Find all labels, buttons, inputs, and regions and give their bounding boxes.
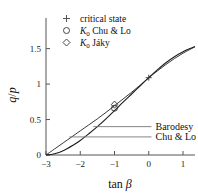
y-axis-title: q/p	[5, 87, 19, 102]
x-tick-label-2: −1	[110, 159, 120, 169]
circle-marker-icon	[64, 28, 70, 34]
x-tick-label-0: −3	[41, 159, 51, 169]
x-tick-label-1: −2	[75, 159, 85, 169]
y-axis-tick-labels: 00.511.5	[30, 44, 42, 160]
legend-item-critical-state[interactable]: critical state	[63, 14, 126, 24]
legend-k-rest-2: Jáky	[90, 38, 110, 48]
chart-plot-area: −3−2−101 00.511.5 Barodesy Chu & Lo	[0, 0, 198, 195]
annotation-label-chu-and-lo: Chu & Lo	[155, 131, 196, 142]
legend-item-k0-jaky[interactable]: K0 Jáky	[63, 38, 110, 50]
x-axis-ticks	[46, 151, 183, 155]
legend-label-k0-jaky: K0 Jáky	[79, 38, 110, 50]
y-tick-label-2: 1	[37, 79, 42, 89]
legend: critical state K0 Chu & Lo K0 Jáky	[63, 14, 131, 50]
y-tick-label-0: 0	[37, 150, 42, 160]
diamond-marker-icon	[63, 39, 70, 46]
y-tick-label-3: 1.5	[30, 44, 42, 54]
legend-k-rest: Chu & Lo	[90, 26, 131, 36]
plus-marker-icon	[63, 15, 70, 22]
x-axis-title-main: tan	[108, 177, 123, 191]
y-tick-label-1: 0.5	[30, 115, 42, 125]
y-axis-ticks	[46, 49, 50, 155]
legend-label-k0-chu-and-lo: K0 Chu & Lo	[79, 26, 131, 38]
x-axis-title-symbol: β	[125, 177, 132, 191]
x-axis-title: tanβ	[108, 177, 132, 191]
y-axis-title-den: p	[5, 87, 19, 94]
legend-item-k0-chu-and-lo[interactable]: K0 Chu & Lo	[64, 26, 131, 38]
annotation-leader-lines	[69, 127, 151, 137]
legend-label-critical-state: critical state	[80, 14, 126, 24]
x-axis-tick-labels: −3−2−101	[41, 159, 185, 169]
x-tick-label-4: 1	[181, 159, 186, 169]
axes-group: −3−2−101 00.511.5	[30, 18, 195, 169]
chart-container: −3−2−101 00.511.5 Barodesy Chu & Lo	[0, 0, 198, 195]
x-tick-label-3: 0	[147, 159, 152, 169]
